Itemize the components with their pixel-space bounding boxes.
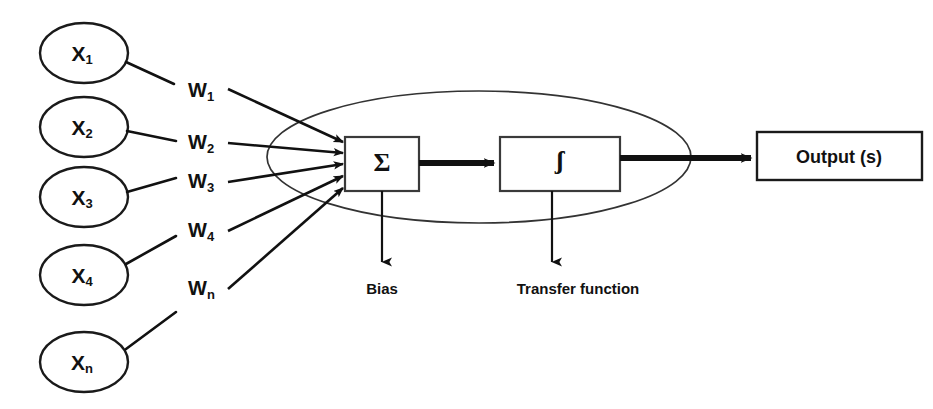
weight-label-w1: W1 — [188, 79, 214, 104]
stub-line-x4 — [126, 236, 176, 264]
stub-line-x1 — [126, 62, 174, 84]
summation-block[interactable]: Σ — [345, 137, 419, 191]
integral-transfer-symbol: ʃ — [554, 146, 565, 175]
weight-label-w4: W4 — [188, 219, 215, 244]
neuron-diagram-canvas: X1 X2 X3 X4 Xn — [0, 0, 933, 409]
transfer-function-block[interactable]: ʃ — [500, 137, 620, 191]
bias-caption: Bias — [366, 280, 398, 297]
weighted-input-arrow-group — [228, 89, 343, 289]
weight-label-w2: W2 — [188, 131, 214, 156]
weight-label-group: W1 W2 W3 W4 Wn — [188, 79, 215, 302]
input-node-x3[interactable]: X3 — [40, 167, 128, 227]
weighted-arrow-w1 — [228, 89, 343, 142]
transfer-function-caption: Transfer function — [517, 280, 640, 297]
stub-line-xn — [126, 312, 176, 349]
input-node-x4[interactable]: X4 — [40, 245, 128, 305]
weight-label-wn: Wn — [188, 277, 215, 302]
input-node-xn[interactable]: Xn — [40, 332, 128, 392]
neuron-diagram-root: X1 X2 X3 X4 Xn — [0, 0, 933, 409]
input-node-x2[interactable]: X2 — [40, 97, 128, 157]
input-node-group: X1 X2 X3 X4 Xn — [40, 23, 128, 392]
output-block[interactable]: Output (s) — [757, 132, 922, 180]
weight-label-w3: W3 — [188, 170, 214, 195]
stub-line-x2 — [127, 131, 176, 141]
weighted-arrow-w3 — [228, 164, 343, 182]
weighted-arrow-w2 — [228, 143, 343, 153]
stub-line-x3 — [127, 178, 176, 192]
input-node-x1[interactable]: X1 — [40, 23, 128, 83]
input-stub-group — [126, 62, 176, 349]
sigma-summation-symbol: Σ — [374, 148, 391, 177]
output-block-label: Output (s) — [796, 147, 882, 167]
